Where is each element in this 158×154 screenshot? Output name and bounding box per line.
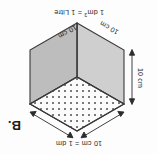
cube-volume-figure: 10 cm = 1 dm B. [0, 0, 158, 154]
height-dimension-label: 10 cm [137, 68, 144, 88]
caption-bottom-suffix: = 1 Litre [54, 8, 84, 17]
height-dimension-arrow [129, 50, 134, 105]
isometric-cube-graphic [0, 0, 158, 154]
caption-bottom-prefix: 1 dm [87, 8, 104, 17]
caption-bottom: 1 dm3 = 1 Litre [0, 8, 158, 18]
caption-bottom-exponent: 3 [84, 12, 87, 18]
